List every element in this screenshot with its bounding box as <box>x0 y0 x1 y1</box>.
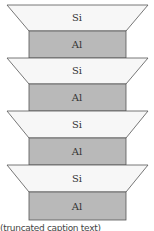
si-label-3: Si <box>72 119 82 130</box>
al-label-3: Al <box>71 146 82 157</box>
si-label-4: Si <box>72 173 82 184</box>
al-label-2: Al <box>71 92 82 103</box>
si-label-2: Si <box>72 65 82 76</box>
si-al-layer-diagram: Si Al Si Al Si Al Si Al <box>0 0 154 231</box>
si-label-1: Si <box>72 12 82 23</box>
al-label-1: Al <box>71 39 82 50</box>
figure-caption: (truncated caption text) <box>0 224 154 231</box>
caption-text: (truncated caption text) <box>0 224 154 231</box>
al-label-4: Al <box>71 201 82 212</box>
